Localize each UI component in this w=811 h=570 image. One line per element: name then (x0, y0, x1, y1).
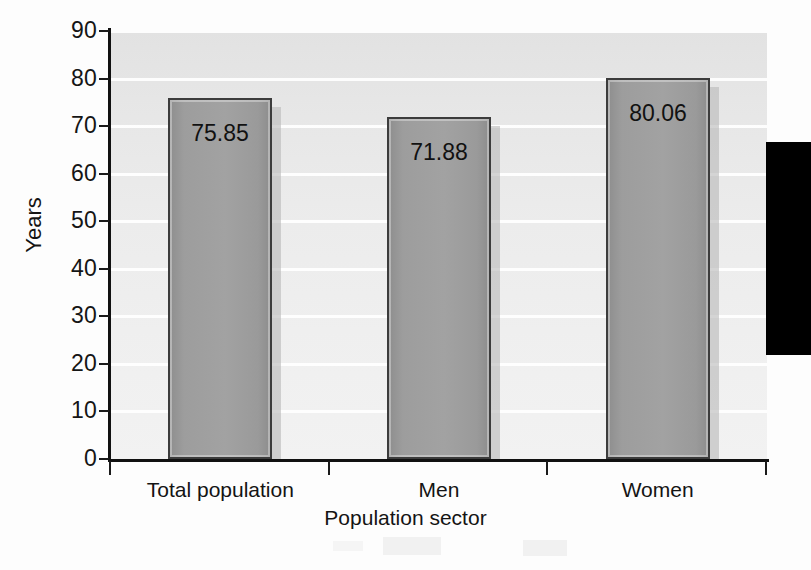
x-axis-line (108, 459, 769, 462)
y-axis-tick-label: 60 (49, 162, 97, 185)
x-axis-tick (546, 461, 548, 475)
y-axis-tick-label: 0 (49, 447, 97, 470)
gridline (111, 31, 767, 33)
bar[interactable] (168, 98, 272, 459)
y-axis-tick-label: 90 (49, 19, 97, 42)
y-axis-tick-label: 20 (49, 352, 97, 375)
y-axis-tick-label: 40 (49, 257, 97, 280)
bar-value-label: 80.06 (594, 100, 722, 126)
bar-value-label: 75.85 (156, 120, 284, 146)
bar-value-label: 71.88 (375, 139, 503, 165)
bar[interactable] (387, 117, 491, 459)
y-axis-tick (99, 173, 109, 175)
x-axis-category-label: Women (548, 478, 767, 502)
x-axis-title: Population sector (0, 506, 811, 530)
y-axis-tick-label: 70 (49, 114, 97, 137)
y-axis-tick (99, 220, 109, 222)
y-axis-tick (99, 315, 109, 317)
y-axis-tick-label: 10 (49, 399, 97, 422)
scan-edge-black-block (766, 142, 811, 355)
y-axis-tick (99, 78, 109, 80)
chart-figure: Years 0102030405060708090 Total populati… (0, 0, 811, 570)
y-axis-tick (99, 30, 109, 32)
y-axis-line (108, 28, 111, 462)
bar[interactable] (606, 78, 710, 459)
y-axis-tick-label: 80 (49, 67, 97, 90)
y-axis-title: Years (23, 165, 45, 285)
y-axis-tick-label: 50 (49, 209, 97, 232)
scan-smudge (333, 541, 363, 551)
x-axis-tick (109, 461, 111, 475)
x-axis-tick (765, 461, 767, 475)
y-axis-tick (99, 363, 109, 365)
x-axis-category-label: Men (330, 478, 549, 502)
scan-smudge (383, 537, 441, 555)
y-axis-tick (99, 125, 109, 127)
x-axis-category-label: Total population (111, 478, 330, 502)
y-axis-tick (99, 410, 109, 412)
y-axis-tick-label: 30 (49, 304, 97, 327)
x-axis-tick (328, 461, 330, 475)
scan-smudge (523, 540, 567, 556)
y-axis-tick (99, 268, 109, 270)
